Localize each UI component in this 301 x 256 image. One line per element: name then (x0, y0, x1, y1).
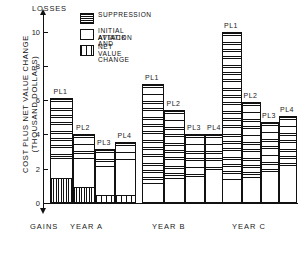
y-tick-4 (44, 134, 48, 135)
y-tick-label-0: 0 (26, 199, 40, 208)
segment-net-value-change (96, 195, 114, 202)
y-tick-label-8: 8 (26, 62, 40, 71)
bar-year-a-pl3 (95, 149, 115, 203)
bar-label-year-b-pl4: PL4 (207, 124, 221, 131)
x-axis-label-year-a: YEAR A (70, 222, 103, 231)
segment-suppression (96, 150, 114, 166)
bar-year-a-pl4 (115, 142, 136, 203)
x-axis-label-year-b: YEAR B (152, 222, 186, 231)
bar-year-c-pl4 (279, 116, 297, 203)
segment-initial-attack-and-aviation (223, 179, 241, 202)
suppression-swatch-icon (80, 13, 94, 24)
bar-label-year-c-pl1: PL1 (224, 22, 238, 29)
bar-label-year-a-pl2: PL2 (76, 124, 90, 131)
bar-year-b-pl2 (164, 110, 185, 203)
segment-initial-attack-and-aviation (186, 176, 204, 203)
legend-label-initial-attack-2: AVIATION (98, 35, 132, 42)
y-tick-0 (44, 203, 48, 204)
segment-initial-attack-and-aviation (116, 159, 135, 194)
segment-net-value-change (116, 195, 135, 202)
segment-net-value-change (186, 202, 204, 203)
bar-label-year-a-pl4: PL4 (118, 132, 132, 139)
y-tick-6 (44, 100, 48, 101)
segment-net-value-change (243, 202, 260, 203)
segment-suppression (116, 143, 135, 159)
segment-initial-attack-and-aviation (51, 158, 72, 179)
bar-label-year-a-pl1: PL1 (54, 88, 68, 95)
bar-year-a-pl2 (73, 134, 95, 203)
bar-label-year-c-pl2: PL2 (244, 92, 258, 99)
segment-initial-attack-and-aviation (74, 158, 94, 187)
legend-label-suppression: SUPPRESSION (98, 12, 152, 19)
segment-net-value-change (262, 202, 278, 203)
y-tick-8 (44, 66, 48, 67)
segment-suppression (51, 99, 72, 158)
x-axis-label-year-c: YEAR C (232, 222, 266, 231)
bar-year-b-pl1 (142, 84, 164, 203)
y-axis-line (43, 14, 44, 208)
segment-net-value-change (143, 202, 163, 203)
x-axis-label-gains: GAINS (30, 222, 58, 231)
y-tick-10 (44, 32, 48, 33)
segment-suppression (143, 85, 163, 183)
net-value-change-swatch-icon (80, 45, 94, 56)
bar-label-year-c-pl3: PL3 (262, 112, 276, 119)
segment-suppression (223, 33, 241, 179)
y-tick-label-10: 10 (26, 28, 40, 37)
segment-suppression (243, 103, 260, 177)
segment-initial-attack-and-aviation (243, 177, 260, 203)
bar-label-year-b-pl1: PL1 (145, 74, 159, 81)
segment-net-value-change (223, 202, 241, 203)
segment-net-value-change (74, 187, 94, 202)
segment-initial-attack-and-aviation (262, 171, 278, 202)
initial-attack-swatch-icon (80, 29, 94, 40)
y-axis-down-arrow (40, 208, 46, 214)
segment-net-value-change (165, 202, 184, 203)
segment-initial-attack-and-aviation (165, 178, 184, 202)
bar-year-a-pl1 (50, 98, 73, 203)
segment-suppression (262, 123, 278, 172)
segment-initial-attack-and-aviation (280, 165, 296, 202)
segment-suppression (280, 117, 296, 165)
bar-year-c-pl2 (242, 102, 261, 203)
bar-label-year-b-pl2: PL2 (167, 100, 181, 107)
bar-year-c-pl1 (222, 32, 242, 203)
y-tick-label-6: 6 (26, 96, 40, 105)
segment-suppression (186, 135, 204, 175)
bar-chart: LOSSES COST PLUS NET VALUE CHANGE (THOUS… (0, 0, 301, 256)
segment-net-value-change (51, 178, 72, 202)
y-tick-label-2: 2 (26, 165, 40, 174)
segment-initial-attack-and-aviation (143, 183, 163, 202)
segment-net-value-change (280, 202, 296, 203)
bar-label-year-b-pl3: PL3 (187, 124, 201, 131)
bar-year-b-pl3 (185, 134, 205, 203)
bar-label-year-a-pl3: PL3 (97, 139, 111, 146)
segment-initial-attack-and-aviation (96, 166, 114, 194)
y-tick-label-4: 4 (26, 130, 40, 139)
segment-suppression (165, 111, 184, 179)
legend-label-net-value-change: NET VALUE CHANGE (98, 44, 130, 64)
bar-label-year-c-pl4: PL4 (280, 106, 294, 113)
losses-axis-note: LOSSES (32, 4, 67, 13)
y-tick-2 (44, 169, 48, 170)
segment-suppression (74, 135, 94, 158)
bar-year-c-pl3 (261, 122, 279, 203)
